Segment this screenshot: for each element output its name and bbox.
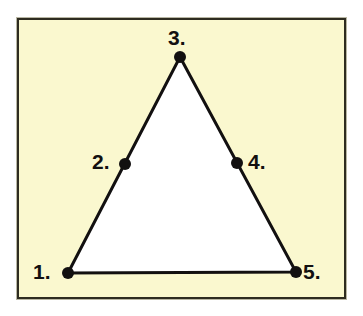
point-label-4: 4.: [248, 151, 266, 172]
point-label-1: 1.: [33, 261, 51, 282]
diagram-panel: [17, 18, 346, 299]
point-label-5: 5.: [303, 261, 321, 282]
point-label-3: 3.: [168, 27, 186, 48]
point-label-2: 2.: [92, 151, 110, 172]
figure-root: 1. 2. 3. 4. 5.: [0, 0, 363, 316]
